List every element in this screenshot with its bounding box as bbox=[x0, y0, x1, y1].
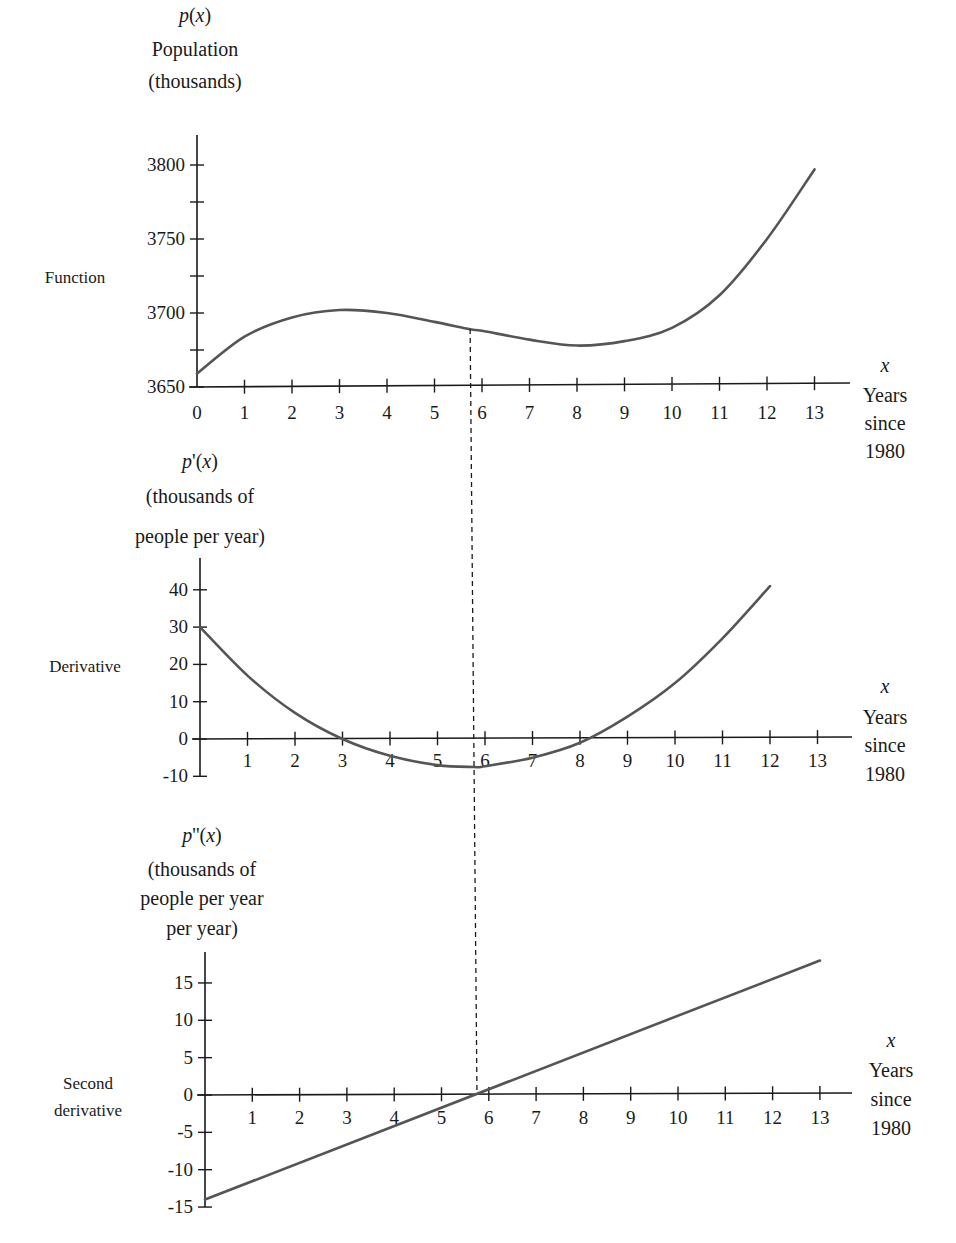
x-tick-label: 12 bbox=[761, 750, 780, 771]
x-tick-label: 8 bbox=[575, 750, 585, 771]
x-tick-label: 1 bbox=[240, 402, 250, 423]
y-tick-label: 0 bbox=[179, 728, 189, 749]
x-axis-label: since bbox=[870, 1088, 911, 1110]
x-tick-label: 3 bbox=[338, 750, 348, 771]
panel-side-label: Second bbox=[63, 1074, 114, 1093]
y-axis-label: p''(x) bbox=[180, 824, 221, 847]
x-axis-label: Years bbox=[863, 706, 908, 728]
x-tick-label: 13 bbox=[808, 750, 827, 771]
y-axis-label: p'(x) bbox=[180, 450, 218, 473]
x-tick-label: 3 bbox=[335, 402, 345, 423]
x-tick-label: 9 bbox=[623, 750, 633, 771]
y-tick-label: 15 bbox=[174, 972, 193, 993]
x-tick-label: 1 bbox=[248, 1107, 258, 1128]
x-axis-label: since bbox=[864, 734, 905, 756]
curve-px bbox=[197, 169, 815, 373]
x-tick-label: 8 bbox=[579, 1107, 589, 1128]
y-tick-label: 30 bbox=[169, 616, 188, 637]
y-tick-label: 20 bbox=[169, 653, 188, 674]
x-tick-label: 3 bbox=[342, 1107, 352, 1128]
x-axis-label: 1980 bbox=[865, 440, 905, 462]
y-axis-label: (thousands of bbox=[146, 485, 255, 508]
panel-side-label: Derivative bbox=[49, 657, 121, 676]
x-tick-label: 8 bbox=[572, 402, 582, 423]
x-axis-label: since bbox=[864, 412, 905, 434]
panel-side-label: derivative bbox=[54, 1101, 122, 1120]
x-tick-label: 4 bbox=[385, 750, 395, 771]
x-tick-label: 11 bbox=[716, 1107, 734, 1128]
y-axis-label: p(x) bbox=[177, 4, 211, 27]
x-tick-label: 13 bbox=[810, 1107, 829, 1128]
x-tick-label: 5 bbox=[430, 402, 440, 423]
x-tick-label: 11 bbox=[713, 750, 731, 771]
x-tick-label: 12 bbox=[763, 1107, 782, 1128]
x-axis-label: x bbox=[886, 1029, 896, 1051]
y-axis-label: Population bbox=[152, 38, 239, 61]
y-axis-label: people per year bbox=[140, 887, 264, 910]
x-tick-label: 13 bbox=[805, 402, 824, 423]
x-axis-1 bbox=[189, 383, 850, 387]
inflection-dashed-line bbox=[470, 329, 477, 1093]
x-axis-label: 1980 bbox=[865, 763, 905, 785]
panel-side-label: Function bbox=[45, 268, 106, 287]
x-tick-label: 7 bbox=[531, 1107, 541, 1128]
y-tick-label: 0 bbox=[184, 1084, 194, 1105]
y-tick-label: -5 bbox=[177, 1121, 193, 1142]
x-tick-label: 10 bbox=[666, 750, 685, 771]
x-tick-label: 1 bbox=[243, 750, 253, 771]
x-tick-label: 2 bbox=[287, 402, 297, 423]
x-tick-label: 7 bbox=[525, 402, 535, 423]
y-tick-label: 10 bbox=[169, 691, 188, 712]
x-tick-label: 2 bbox=[295, 1107, 305, 1128]
y-axis-label: (thousands of bbox=[148, 858, 257, 881]
y-tick-label: 3800 bbox=[147, 154, 185, 175]
x-tick-label: 7 bbox=[528, 750, 538, 771]
x-tick-label: 12 bbox=[758, 402, 777, 423]
x-axis-label: x bbox=[880, 354, 890, 376]
x-tick-label: 9 bbox=[620, 402, 630, 423]
y-tick-label: 3750 bbox=[147, 228, 185, 249]
chart-canvas: 3650370037503800012345678910111213p(x)Po… bbox=[0, 0, 956, 1243]
x-tick-label: 4 bbox=[382, 402, 392, 423]
x-tick-label: 10 bbox=[663, 402, 682, 423]
x-axis-label: Years bbox=[863, 384, 908, 406]
y-axis-label: (thousands) bbox=[148, 70, 241, 93]
y-tick-label: 40 bbox=[169, 579, 188, 600]
y-tick-label: -15 bbox=[168, 1196, 193, 1217]
x-tick-label: 11 bbox=[710, 402, 728, 423]
y-tick-label: 10 bbox=[174, 1009, 193, 1030]
x-tick-label: 10 bbox=[669, 1107, 688, 1128]
y-tick-label: -10 bbox=[168, 1159, 193, 1180]
x-tick-label: 2 bbox=[290, 750, 300, 771]
y-tick-label: 3700 bbox=[147, 302, 185, 323]
x-axis-3 bbox=[197, 1093, 852, 1095]
x-axis-2 bbox=[192, 737, 852, 739]
x-tick-label: 5 bbox=[433, 750, 443, 771]
x-tick-label: 9 bbox=[626, 1107, 636, 1128]
y-tick-label: 3650 bbox=[147, 376, 185, 397]
y-axis-label: people per year) bbox=[135, 525, 265, 548]
x-axis-label: x bbox=[880, 675, 890, 697]
x-tick-label: 6 bbox=[477, 402, 487, 423]
x-axis-label: 1980 bbox=[871, 1117, 911, 1139]
x-tick-label: 6 bbox=[484, 1107, 494, 1128]
y-tick-label: -10 bbox=[163, 765, 188, 786]
x-axis-label: Years bbox=[869, 1059, 914, 1081]
curve-pprimeprimex bbox=[205, 961, 820, 1200]
x-tick-label: 0 bbox=[192, 402, 202, 423]
y-axis-label: per year) bbox=[166, 917, 238, 940]
y-tick-label: 5 bbox=[184, 1047, 194, 1068]
